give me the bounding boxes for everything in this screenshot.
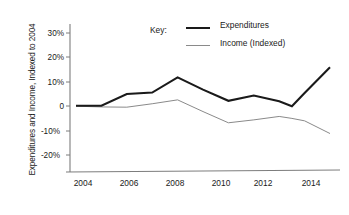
legend-label-income: Income (Indexed): [220, 38, 285, 48]
chart-plot-area: [0, 0, 349, 215]
legend-swatch-expenditures-icon: [186, 27, 210, 29]
y-tick-marks: [66, 33, 70, 155]
series-line-expenditures: [76, 67, 330, 106]
legend-swatch-income-icon: [186, 45, 210, 46]
chart-container: Expenditures and Income, Indexed to 2004…: [0, 0, 349, 215]
x-axis-line: [66, 170, 340, 172]
legend-title: Key:: [150, 25, 167, 35]
legend-label-expenditures: Expenditures: [220, 20, 269, 30]
